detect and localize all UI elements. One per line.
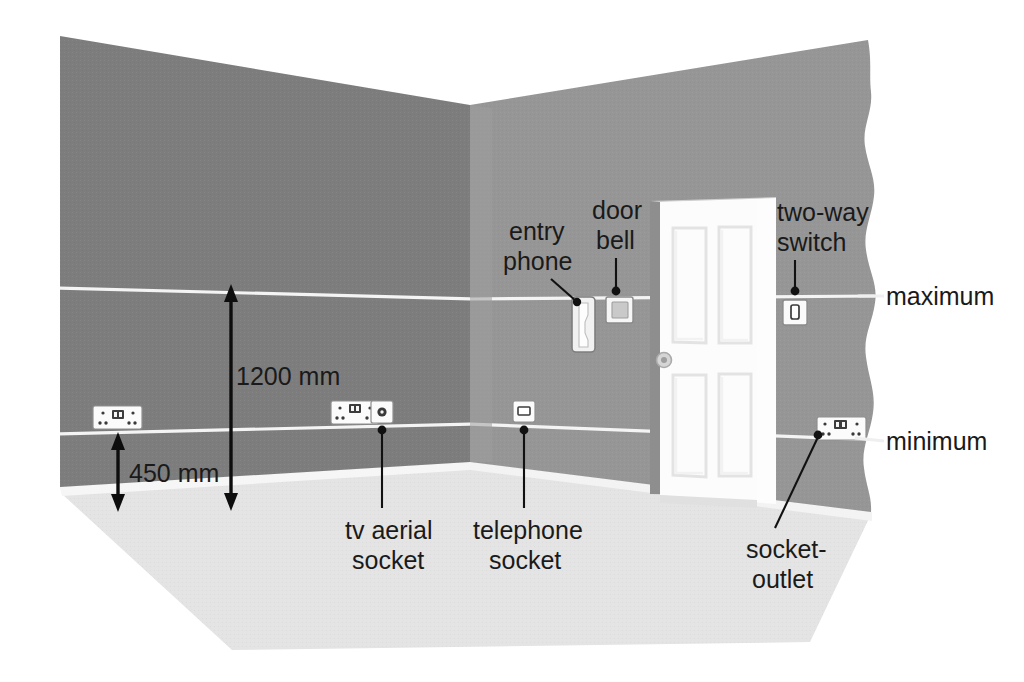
diagram-canvas: 1200 mm 450 mm maximum minimum entry pho…: [0, 0, 1024, 682]
maximum-label: maximum: [886, 282, 994, 310]
door-assembly: [650, 197, 776, 508]
tv-aerial-socket-label-line2: socket: [352, 546, 424, 574]
door-bell-label-line1: door: [592, 196, 642, 224]
leader-dot-socket-outlet: [814, 431, 823, 440]
telephone-socket-label-line2: socket: [489, 546, 561, 574]
two-way-switch-label-line2: switch: [777, 228, 846, 256]
door-frame-left-reveal: [650, 201, 660, 494]
dimension-label-450mm: 450 mm: [129, 459, 219, 487]
two-way-switch-label-line1: two-way: [777, 198, 869, 226]
door-bell[interactable]: [606, 297, 633, 323]
door-bell-label-line2: bell: [596, 226, 635, 254]
tv-aerial-socket-label-line1: tv aerial: [345, 516, 433, 544]
socket-outlet-right-wall[interactable]: [817, 417, 866, 440]
corner-shading: [470, 105, 492, 462]
dimension-label-1200mm: 1200 mm: [236, 362, 340, 390]
leader-dot-telephone-socket: [520, 426, 529, 435]
telephone-socket-label-line1: telephone: [473, 516, 583, 544]
leader-dot-tv-aerial-socket: [378, 426, 387, 435]
leader-dot-door-bell: [612, 287, 621, 296]
socket-outlet-label-line1: socket-: [746, 535, 827, 563]
socket-outlet-label-line2: outlet: [752, 565, 813, 593]
door-knob-center: [661, 357, 667, 363]
socket-outlet-left-wall[interactable]: [93, 406, 142, 429]
leader-dot-two-way-switch: [791, 287, 800, 296]
telephone-socket[interactable]: [513, 401, 535, 422]
tv-aerial-socket[interactable]: [371, 401, 393, 423]
entry-phone-label-line1: entry: [509, 217, 565, 245]
door-leaf[interactable]: [660, 200, 757, 500]
maximum-edge-label-group: maximum: [858, 282, 994, 310]
two-way-switch[interactable]: [783, 300, 807, 325]
entry-phone-label-line2: phone: [503, 247, 573, 275]
minimum-label: minimum: [886, 427, 987, 455]
leader-dot-entry-phone: [573, 298, 581, 306]
room-mounting-heights-diagram: 1200 mm 450 mm maximum minimum entry pho…: [0, 0, 1024, 682]
minimum-edge-label-group: minimum: [855, 427, 987, 455]
